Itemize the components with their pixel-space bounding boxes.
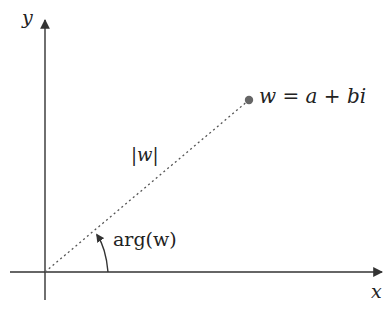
point-w bbox=[245, 96, 253, 104]
angle-label: arg(w) bbox=[113, 228, 177, 250]
modulus-label: |w| bbox=[131, 144, 159, 165]
x-axis-label: x bbox=[371, 280, 382, 302]
y-axis-label: y bbox=[22, 6, 33, 28]
complex-plane-diagram bbox=[0, 0, 386, 310]
angle-arc bbox=[97, 235, 108, 272]
point-label: w = a + bi bbox=[259, 84, 366, 108]
